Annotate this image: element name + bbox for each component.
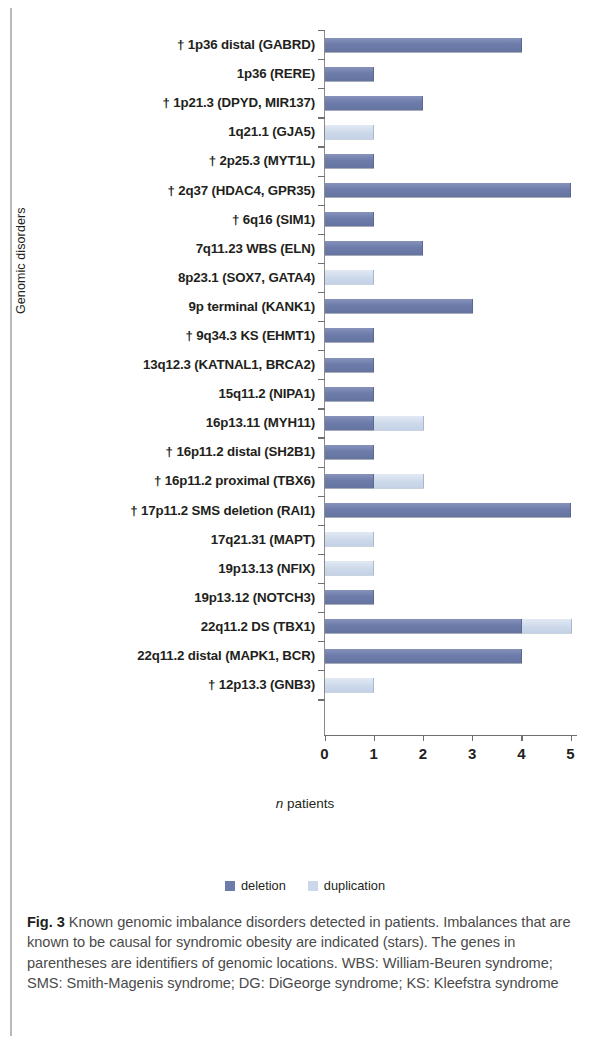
bar-stack	[324, 445, 374, 459]
bar-cell	[324, 670, 576, 699]
y-axis-tick	[318, 350, 325, 351]
bar-segment-deletion	[324, 445, 374, 459]
legend-label-deletion: deletion	[241, 878, 286, 893]
x-axis-title: n patients	[0, 796, 610, 811]
y-axis-tick	[318, 234, 325, 235]
x-axis-tick-labels: 012345	[0, 745, 610, 771]
bar-cell	[324, 292, 576, 321]
legend-item-deletion: deletion	[225, 878, 286, 893]
bar-segment-duplication	[374, 416, 424, 430]
bar-segment-deletion	[324, 67, 374, 81]
bar-stack	[324, 154, 374, 168]
chart-row: † 16p11.2 proximal (TBX6)	[28, 466, 588, 495]
bar-segment-deletion	[324, 358, 374, 372]
y-axis-tick	[318, 408, 325, 409]
category-label: † 1p21.3 (DPYD, MIR137)	[28, 95, 324, 110]
chart-row: 1q21.1 (GJA5)	[28, 117, 588, 146]
category-label: 7q11.23 WBS (ELN)	[28, 241, 324, 256]
category-label: 9p terminal (KANK1)	[28, 299, 324, 314]
bar-cell	[324, 234, 576, 263]
bar-segment-deletion	[324, 503, 571, 517]
y-axis-line	[324, 30, 325, 736]
chart-row: 9p terminal (KANK1)	[28, 292, 588, 321]
y-axis-tick	[318, 146, 325, 147]
bar-stack	[324, 299, 473, 313]
bar-cell	[324, 146, 576, 175]
bar-stack	[324, 125, 374, 139]
x-axis-tick	[325, 735, 326, 741]
y-axis-tick	[318, 176, 325, 177]
chart-row: 1p36 (RERE)	[28, 59, 588, 88]
y-axis-tick	[318, 554, 325, 555]
chart-row: 17q21.31 (MAPT)	[28, 525, 588, 554]
chart-row: 16p13.11 (MYH11)	[28, 408, 588, 437]
category-label: † 1p36 distal (GABRD)	[28, 37, 324, 52]
bar-cell	[324, 612, 576, 641]
category-label: † 2q37 (HDAC4, GPR35)	[28, 183, 324, 198]
bar-stack	[324, 38, 522, 52]
x-axis-tick-label: 0	[320, 745, 328, 762]
bar-stack	[324, 358, 374, 372]
x-axis-tick	[571, 735, 572, 741]
category-label: † 16p11.2 distal (SH2B1)	[28, 444, 324, 459]
bar-stack	[324, 212, 374, 226]
y-axis-tick	[318, 437, 325, 438]
bar-segment-deletion	[324, 416, 374, 430]
y-axis-tick	[318, 525, 325, 526]
bar-segment-deletion	[324, 96, 423, 110]
bar-cell	[324, 321, 576, 350]
bar-segment-duplication	[324, 678, 374, 692]
figure-3: Genomic disorders † 1p36 distal (GABRD)1…	[0, 0, 610, 1043]
bar-segment-duplication	[324, 561, 374, 575]
x-axis-tick	[423, 735, 424, 741]
bar-stack	[324, 503, 571, 517]
category-label: 15q11.2 (NIPA1)	[28, 386, 324, 401]
bar-stack	[324, 241, 423, 255]
bar-stack	[324, 96, 423, 110]
category-label: † 2p25.3 (MYT1L)	[28, 153, 324, 168]
bar-cell	[324, 437, 576, 466]
x-axis-line	[324, 735, 577, 736]
bar-segment-deletion	[324, 183, 571, 197]
bar-cell	[324, 175, 576, 204]
y-axis-tick	[318, 699, 325, 700]
bar-cell	[324, 205, 576, 234]
category-label: 13q12.3 (KATNAL1, BRCA2)	[28, 357, 324, 372]
bar-segment-deletion	[324, 154, 374, 168]
y-axis-title: Genomic disorders	[14, 134, 28, 314]
chart-row: † 2p25.3 (MYT1L)	[28, 146, 588, 175]
x-axis-tick-label: 1	[370, 745, 378, 762]
chart-row: 13q12.3 (KATNAL1, BRCA2)	[28, 350, 588, 379]
bar-segment-deletion	[324, 474, 374, 488]
bar-cell	[324, 379, 576, 408]
y-axis-tick	[318, 379, 325, 380]
bar-cell	[324, 583, 576, 612]
chart-plot-area: Genomic disorders † 1p36 distal (GABRD)1…	[0, 14, 610, 774]
y-axis-tick	[318, 670, 325, 671]
bar-segment-deletion	[324, 649, 522, 663]
chart-row: † 17p11.2 SMS deletion (RAI1)	[28, 496, 588, 525]
bar-cell	[324, 263, 576, 292]
y-axis-tick	[318, 263, 325, 264]
chart-row: † 16p11.2 distal (SH2B1)	[28, 437, 588, 466]
bar-segment-deletion	[324, 387, 374, 401]
x-axis-tick-label: 5	[566, 745, 574, 762]
bar-cell	[324, 466, 576, 495]
chart-row: † 1p36 distal (GABRD)	[28, 30, 588, 59]
y-axis-tick	[318, 612, 325, 613]
bar-segment-deletion	[324, 241, 423, 255]
bar-stack	[324, 183, 571, 197]
y-axis-tick	[318, 88, 325, 89]
bar-stack	[324, 678, 374, 692]
category-label: † 9q34.3 KS (EHMT1)	[28, 328, 324, 343]
chart-rows: † 1p36 distal (GABRD)1p36 (RERE)† 1p21.3…	[28, 30, 588, 699]
y-axis-tick	[318, 467, 325, 468]
chart-row: † 2q37 (HDAC4, GPR35)	[28, 175, 588, 204]
bar-cell	[324, 59, 576, 88]
chart-row: 7q11.23 WBS (ELN)	[28, 234, 588, 263]
y-axis-tick	[318, 205, 325, 206]
bar-stack	[324, 590, 374, 604]
bar-cell	[324, 30, 576, 59]
chart-row: † 9q34.3 KS (EHMT1)	[28, 321, 588, 350]
chart-row: 8p23.1 (SOX7, GATA4)	[28, 263, 588, 292]
